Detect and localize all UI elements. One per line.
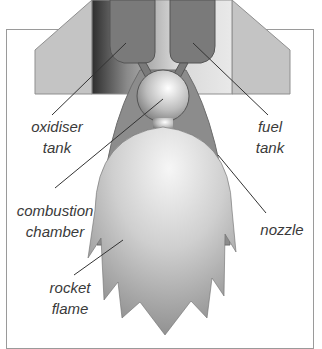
label-text: chamber	[10, 221, 100, 242]
label-rocket-flame: rocket flame	[40, 277, 100, 319]
oxidiser-tank-shape	[110, 0, 155, 63]
label-combustion-chamber: combustion chamber	[10, 200, 100, 242]
label-text: fuel	[250, 116, 290, 137]
label-text: tank	[22, 137, 92, 158]
rocket-flame-shape	[88, 127, 236, 335]
label-text: flame	[40, 298, 100, 319]
label-text: oxidiser	[22, 116, 92, 137]
label-text: rocket	[40, 277, 100, 298]
fuel-tank-shape	[170, 0, 215, 63]
label-text: nozzle	[254, 219, 310, 240]
label-fuel-tank: fuel tank	[250, 116, 290, 158]
right-fin	[232, 0, 290, 94]
label-text: combustion	[10, 200, 100, 221]
left-fin	[35, 0, 92, 94]
label-oxidiser-tank: oxidiser tank	[22, 116, 92, 158]
label-text: tank	[250, 137, 290, 158]
label-nozzle: nozzle	[254, 219, 310, 240]
